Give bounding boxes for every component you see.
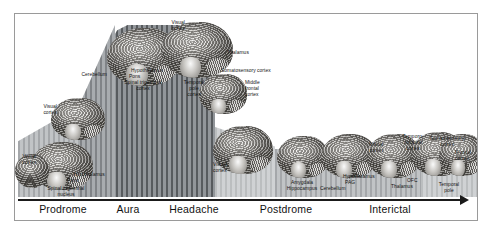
intensity-curve-area: Visual cortex Visual cortex Hypothalamus… [15,14,477,197]
label-prodrome-pons: Pons [67,178,78,184]
label-headache-spinal-trigeminal-cortex: Spinal trigeminal cortex [115,80,171,92]
label-prodrome-visual-cortex-upper: Visual cortex [37,104,57,116]
label-interictal-thalamus: Thalamus [391,184,413,190]
label-interictal-cerebellum: Cerebellum [320,186,346,192]
timeline-axis [18,199,462,201]
label-headache-middle-frontal-cortex: Middle frontal cortex [245,80,260,98]
label-headache-temporal-pole-cortex: Temporal pole cortex [181,80,207,98]
migraine-phase-figure: Visual cortex Visual cortex Hypothalamus… [0,0,494,234]
label-interictal-pag: PAG [345,180,355,186]
label-headache-somatosensory-cortex: Somatosensory cortex [221,68,271,74]
label-headache-thalamus: Thalamus [227,50,249,56]
phase-label-prodrome: Prodrome [24,203,102,215]
phase-label-postdrome: Postdrome [242,203,330,215]
label-aura-cerebellum: Cerebellum [77,72,107,78]
label-interictal-amygdala-hippocampus: Amygdala Hippocampus [280,180,324,192]
label-headache-visual-cortex: Visual cortex [163,20,185,32]
label-postdrome-visual-cortex: Visual cortex [213,162,227,174]
label-interictal-temporo-occipital-cortex: Temporo- occipital cortex [399,134,427,152]
label-prodrome-spinal-trigeminal-nucleus: Spinal trigeminal nucleus [36,186,96,197]
label-interictal-frontal-cortex: Frontal cortex [455,150,471,162]
label-interictal-somatosensory-cortex: Somatosensory cortex [429,136,465,148]
timeline-arrow-icon [460,195,469,205]
label-prodrome-visual-cortex-lower: Visual cortex [18,154,36,166]
phase-label-aura: Aura [100,203,156,215]
label-interictal-visual-cortex: Visual cortex [361,142,383,154]
brain-prodrome-upper-sagittal [51,98,105,140]
phase-label-interictal: Interictal [348,203,432,215]
label-interictal-temporal-pole: Temporal pole [437,182,461,194]
phase-label-headache: Headache [152,203,236,215]
